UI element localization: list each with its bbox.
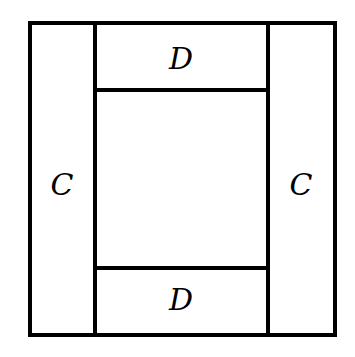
region-top-label: D <box>151 44 211 74</box>
region-bottom-label: D <box>151 285 211 315</box>
left-column-divider <box>93 21 97 337</box>
bottom-row-divider <box>95 266 268 270</box>
right-column-divider <box>266 21 270 337</box>
outer-top-border <box>29 21 337 25</box>
outer-bottom-border <box>29 333 337 337</box>
region-left-label: C <box>32 170 92 200</box>
outer-right-border <box>333 21 337 337</box>
top-row-divider <box>95 88 268 92</box>
region-right-label: C <box>271 170 331 200</box>
